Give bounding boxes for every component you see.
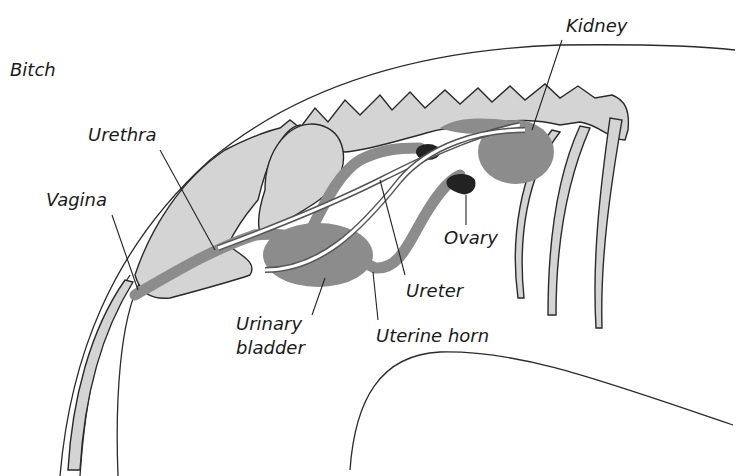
ovary bbox=[446, 174, 475, 194]
ureter-label: Ureter bbox=[406, 281, 463, 301]
urinary-bladder-label-line1: Urinary bbox=[236, 314, 302, 334]
species-label: Bitch bbox=[10, 60, 56, 80]
ovary-label: Ovary bbox=[444, 228, 498, 248]
belly-outline bbox=[350, 352, 733, 470]
kidney-label: Kidney bbox=[566, 16, 627, 36]
diagram-graphic bbox=[0, 0, 741, 476]
urethra-label: Urethra bbox=[88, 125, 157, 145]
vagina-label: Vagina bbox=[46, 190, 107, 210]
urinary-bladder-label-line2: bladder bbox=[236, 338, 305, 358]
anatomy-diagram: Bitch Kidney Urethra Vagina Ovary Ureter… bbox=[0, 0, 741, 476]
uterine-horn-leader bbox=[373, 272, 378, 320]
uterine-horn-label: Uterine horn bbox=[376, 326, 489, 346]
rib-3 bbox=[595, 118, 622, 328]
rib-2 bbox=[548, 126, 590, 315]
hind-leg-outline-inner bbox=[117, 282, 140, 476]
